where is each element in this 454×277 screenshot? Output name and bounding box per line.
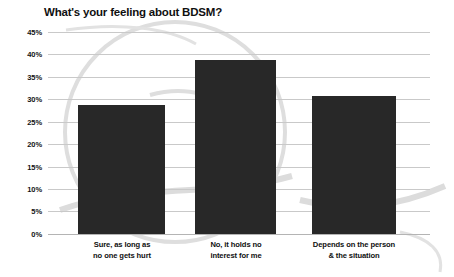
ytick-label-35: 35% [0, 73, 42, 82]
bar-0 [78, 105, 165, 234]
bar-chart: What's your feeling about BDSM? 45% 40% … [0, 0, 454, 277]
category-label-2-line-1: Depends on the person [290, 240, 418, 251]
bar-1 [195, 60, 276, 234]
category-label-1: No, it holds no interest for me [172, 240, 300, 261]
ytick-label-15: 15% [0, 163, 42, 172]
ytick-label-0: 0% [0, 230, 42, 239]
gridline-40 [48, 54, 430, 55]
chart-title: What's your feeling about BDSM? [44, 6, 222, 18]
ytick-label-40: 40% [0, 50, 42, 59]
category-label-1-line-2: interest for me [172, 251, 300, 262]
category-label-0-line-2: no one gets hurt [58, 251, 186, 262]
plot-area: 45% 40% 35% 30% 25% 20% 15% 10% 5% 0% [0, 0, 454, 277]
gridline-0-baseline [48, 234, 430, 235]
category-label-1-line-1: No, it holds no [172, 240, 300, 251]
ytick-label-25: 25% [0, 118, 42, 127]
gridline-45 [48, 32, 430, 33]
ytick-label-10: 10% [0, 185, 42, 194]
bar-2 [312, 96, 396, 234]
category-label-0: Sure, as long as no one gets hurt [58, 240, 186, 261]
ytick-label-30: 30% [0, 95, 42, 104]
category-label-2: Depends on the person & the situation [290, 240, 418, 261]
ytick-label-5: 5% [0, 207, 42, 216]
ytick-label-45: 45% [0, 28, 42, 37]
ytick-label-20: 20% [0, 140, 42, 149]
category-label-2-line-2: & the situation [290, 251, 418, 262]
category-label-0-line-1: Sure, as long as [58, 240, 186, 251]
